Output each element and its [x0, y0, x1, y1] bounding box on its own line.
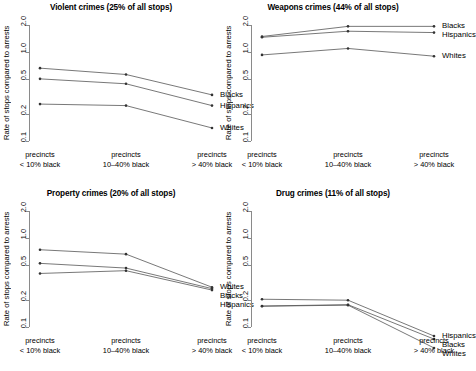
data-point — [39, 78, 42, 81]
data-point — [261, 36, 264, 39]
data-point — [347, 47, 350, 50]
chart-panel-drug-crimes: Drug crimes (11% of all stops) Rate of s… — [222, 186, 444, 371]
series-label-blacks: Blacks — [442, 21, 465, 30]
data-point — [347, 304, 350, 307]
y-axis-tick-mark — [248, 79, 251, 80]
panel-title: Drug crimes (11% of all stops) — [222, 189, 444, 198]
y-axis-tick-mark — [248, 300, 251, 301]
y-axis-tick-mark — [26, 141, 29, 142]
x-tick-label-line2: 10–40% black — [91, 160, 161, 170]
data-point — [211, 289, 214, 292]
y-axis-tick-mark — [26, 238, 29, 239]
data-point — [347, 299, 350, 302]
data-point — [261, 54, 264, 57]
y-axis-tick-mark — [26, 52, 29, 53]
series-line-whites — [40, 104, 212, 128]
y-axis-tick-mark — [26, 300, 29, 301]
x-axis-tick-labels: precincts< 10% blackprecincts10–40% blac… — [246, 336, 444, 358]
x-tick-label-line1: precincts — [91, 150, 161, 160]
data-point — [125, 82, 128, 85]
series-label-whites: Whites — [442, 51, 466, 60]
y-axis-tick-mark — [26, 265, 29, 266]
x-tick-label: precincts< 10% black — [5, 150, 75, 169]
y-axis-tick-mark — [26, 114, 29, 115]
x-tick-label-line1: precincts — [91, 336, 161, 346]
x-tick-label-line1: precincts — [399, 150, 469, 160]
data-point — [125, 104, 128, 107]
y-axis-label: Rate of stops compared to arrests — [223, 20, 234, 145]
plot-area — [252, 20, 444, 145]
series-line-blacks — [40, 68, 212, 95]
y-axis-tick-labels: 0.10.20.51.02.0 — [235, 20, 249, 145]
series-label-whites: Whites — [442, 349, 466, 358]
data-point — [125, 253, 128, 256]
plot-area — [252, 206, 444, 331]
y-axis-tick-labels: 0.10.20.51.02.0 — [235, 206, 249, 331]
series-line-hispanics — [40, 271, 212, 290]
y-axis-label: Rate of stops compared to arrests — [223, 206, 234, 331]
y-axis-line — [251, 211, 252, 327]
x-axis-tick-labels: precincts< 10% blackprecincts10–40% blac… — [246, 150, 444, 172]
data-point — [39, 262, 42, 265]
panel-title: Violent crimes (25% of all stops) — [0, 3, 222, 12]
x-tick-label-line2: < 10% black — [5, 346, 75, 356]
plot-area — [30, 206, 222, 331]
chart-panel-property-crimes: Property crimes (20% of all stops) Rate … — [0, 186, 222, 371]
panel-title: Weapons crimes (44% of all stops) — [222, 3, 444, 12]
data-point — [211, 127, 214, 130]
data-point — [211, 104, 214, 107]
series-label-blacks: Blacks — [442, 340, 465, 349]
data-point — [433, 31, 436, 34]
data-point — [39, 67, 42, 70]
y-axis-line — [251, 25, 252, 141]
x-tick-label-line2: 10–40% black — [313, 160, 383, 170]
data-point — [39, 103, 42, 106]
y-axis-label: Rate of stops compared to arrests — [1, 20, 12, 145]
x-tick-label: precincts10–40% black — [313, 150, 383, 169]
x-axis-tick-labels: precincts< 10% blackprecincts10–40% blac… — [24, 336, 222, 358]
y-axis-line — [29, 25, 30, 141]
data-point — [125, 267, 128, 270]
y-axis-label: Rate of stops compared to arrests — [1, 206, 12, 331]
data-point — [433, 55, 436, 58]
x-tick-label-line2: 10–40% black — [313, 346, 383, 356]
x-tick-label-line2: 10–40% black — [91, 346, 161, 356]
x-tick-label-line1: precincts — [227, 150, 297, 160]
x-tick-label-line1: precincts — [5, 150, 75, 160]
y-axis-tick-mark — [248, 327, 251, 328]
data-point — [211, 94, 214, 97]
x-tick-label-line2: < 10% black — [227, 346, 297, 356]
chart-panel-weapons-crimes: Weapons crimes (44% of all stops) Rate o… — [222, 0, 444, 185]
x-tick-label-line1: precincts — [313, 336, 383, 346]
data-point — [125, 73, 128, 76]
panel-title: Property crimes (20% of all stops) — [0, 189, 222, 198]
x-tick-label: precincts> 40% black — [399, 150, 469, 169]
y-axis-tick-mark — [248, 114, 251, 115]
data-point — [261, 298, 264, 301]
x-tick-label-line1: precincts — [227, 336, 297, 346]
y-axis-tick-labels: 0.10.20.51.02.0 — [13, 206, 27, 331]
x-tick-label-line2: < 10% black — [227, 160, 297, 170]
data-point — [347, 30, 350, 33]
series-line-blacks — [262, 305, 434, 339]
data-point — [433, 25, 436, 28]
x-tick-label: precincts10–40% black — [313, 336, 383, 355]
x-axis-tick-labels: precincts< 10% blackprecincts10–40% blac… — [24, 150, 222, 172]
data-point — [261, 305, 264, 308]
y-axis-tick-mark — [26, 25, 29, 26]
y-axis-tick-mark — [248, 238, 251, 239]
chart-panel-violent-crimes: Violent crimes (25% of all stops) Rate o… — [0, 0, 222, 185]
x-tick-label: precincts10–40% black — [91, 150, 161, 169]
x-tick-label-line1: precincts — [5, 336, 75, 346]
data-point — [125, 269, 128, 272]
x-tick-label-line2: < 10% black — [5, 160, 75, 170]
series-label-hispanics: Hispanics — [442, 331, 476, 340]
data-point — [347, 25, 350, 28]
y-axis-tick-mark — [26, 327, 29, 328]
data-point — [39, 248, 42, 251]
x-tick-label-line1: precincts — [313, 150, 383, 160]
x-tick-label: precincts< 10% black — [227, 150, 297, 169]
x-tick-label-line2: > 40% black — [399, 160, 469, 170]
y-axis-tick-mark — [248, 141, 251, 142]
